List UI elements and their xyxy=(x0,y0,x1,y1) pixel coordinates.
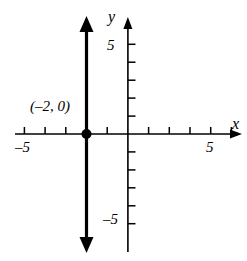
y-axis-label: y xyxy=(108,9,115,25)
x-axis-tick-label-negative-5: –5 xyxy=(15,140,30,155)
line-arrowhead-up xyxy=(80,16,94,32)
line-arrowhead-down xyxy=(80,237,94,253)
coordinate-plane-svg xyxy=(0,0,247,261)
x-axis-label: x xyxy=(232,116,239,132)
graph-figure: y x 5 –5 –5 5 (–2, 0) xyxy=(0,0,247,261)
y-axis-tick-label-negative-5: –5 xyxy=(103,212,118,227)
point-coordinate-label: (–2, 0) xyxy=(30,99,70,114)
x-axis-tick-label-positive-5: 5 xyxy=(206,140,214,155)
plotted-point-marker xyxy=(82,129,92,139)
y-axis-tick-label-positive-5: 5 xyxy=(107,38,115,53)
y-axis-arrowhead xyxy=(123,17,132,29)
